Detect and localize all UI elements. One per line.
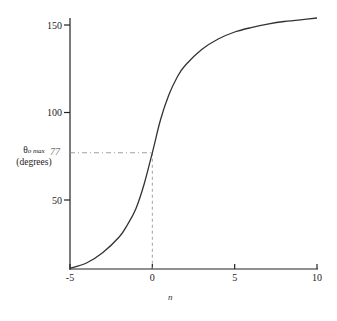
data-curve bbox=[70, 18, 317, 268]
y-axis-label-subscript: o max bbox=[28, 147, 45, 155]
x-axis-label: n bbox=[168, 292, 173, 302]
y-tick-label: 100 bbox=[47, 107, 62, 118]
reference-value-label: 77 bbox=[50, 146, 60, 157]
x-tick-label: 0 bbox=[150, 272, 155, 283]
y-axis-label-units: (degrees) bbox=[16, 157, 51, 167]
x-tick-label: 10 bbox=[312, 272, 322, 283]
x-tick-label: 5 bbox=[232, 272, 237, 283]
y-tick-label: 50 bbox=[52, 195, 62, 206]
y-ticks: 50100150 bbox=[47, 20, 70, 206]
y-tick-label: 150 bbox=[47, 20, 62, 31]
x-ticks: -50510 bbox=[66, 264, 322, 283]
x-tick-label: -5 bbox=[66, 272, 74, 283]
